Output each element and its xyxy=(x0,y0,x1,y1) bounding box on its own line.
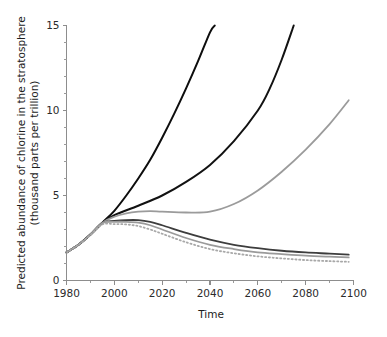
series-line-no-protocol-second xyxy=(67,26,294,253)
series-line-no-protocol-highest xyxy=(67,26,215,253)
x-tick-label: 2040 xyxy=(197,287,224,299)
x-tick-label: 2100 xyxy=(340,287,367,299)
x-tick-label: 2060 xyxy=(244,287,271,299)
y-tick-label: 5 xyxy=(53,189,60,201)
x-tick-label: 1980 xyxy=(53,287,80,299)
y-axis-title-line2: (thousand parts per trillion) xyxy=(28,81,40,226)
series-line-protocol-dark-gray xyxy=(67,220,349,255)
x-tick-label: 2080 xyxy=(292,287,319,299)
series-line-partial-control-rising xyxy=(67,100,349,252)
y-tick-label: 10 xyxy=(46,104,59,116)
x-tick-label: 2020 xyxy=(149,287,176,299)
y-tick-label: 0 xyxy=(53,274,60,286)
chart-container: 0510151980200020202040206020802100 Time … xyxy=(0,0,387,337)
x-axis-title: Time xyxy=(197,308,224,320)
axes-group xyxy=(63,26,354,285)
line-chart: 0510151980200020202040206020802100 Time … xyxy=(0,0,387,337)
x-tick-label: 2000 xyxy=(101,287,128,299)
y-axis-title-line1: Predicted abundance of chlorine in the s… xyxy=(15,16,27,289)
y-tick-label: 15 xyxy=(46,19,59,31)
series-group xyxy=(67,26,349,262)
